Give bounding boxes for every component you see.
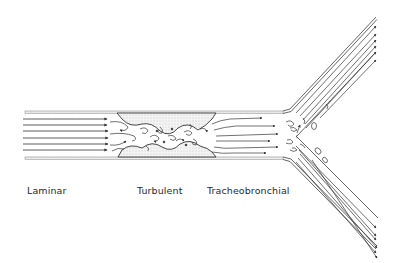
label-turbulent: Turbulent [137,185,182,196]
label-laminar: Laminar [27,185,66,196]
tracheal-streamlines [212,118,278,153]
carina [296,135,298,138]
label-tracheobronchial: Tracheobronchial [207,185,290,196]
upper-branch-streamlines [296,26,376,128]
carina-eddies [286,104,328,164]
lower-branch-streamlines [296,146,377,258]
laminar-streamlines [23,119,108,150]
airflow-diagram [0,0,399,263]
